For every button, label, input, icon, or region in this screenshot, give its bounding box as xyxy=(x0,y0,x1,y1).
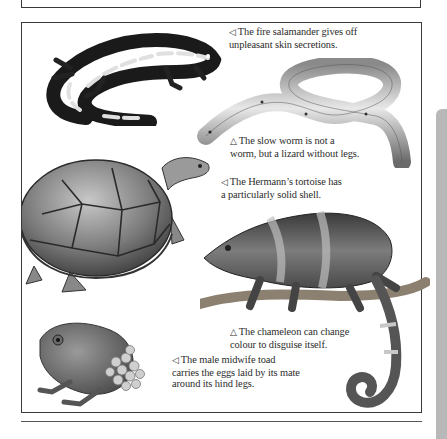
caption-line: worm, but a lizard without legs. xyxy=(230,148,359,159)
caption-chameleon: △The chameleon can change colour to disg… xyxy=(230,326,349,350)
caption-line: The chameleon can change xyxy=(239,326,349,337)
bottom-rule xyxy=(21,421,422,422)
caption-line: unpleasant skin secretions. xyxy=(229,39,337,50)
left-triangle-icon: ◁ xyxy=(172,355,179,365)
caption-fire-salamander: ◁The fire salamander gives off unpleasan… xyxy=(229,26,357,50)
up-triangle-icon: △ xyxy=(230,136,237,146)
hermanns-tortoise-illustration xyxy=(22,144,218,294)
caption-line: a particularly solid shell. xyxy=(221,189,321,200)
caption-slow-worm: △The slow worm is not a worm, but a liza… xyxy=(230,135,359,159)
caption-hermanns-tortoise: ◁The Hermann’s tortoise has a particular… xyxy=(221,176,342,200)
caption-line: The slow worm is not a xyxy=(239,135,335,146)
caption-line: The male midwife toad xyxy=(181,354,276,365)
caption-midwife-toad: ◁The male midwife toad carries the eggs … xyxy=(172,354,300,390)
caption-line: colour to disguise itself. xyxy=(230,339,327,350)
previous-panel-border xyxy=(21,0,421,8)
up-triangle-icon: △ xyxy=(230,327,237,337)
caption-line: around its hind legs. xyxy=(172,378,254,389)
caption-line: The Hermann’s tortoise has xyxy=(230,176,342,187)
left-triangle-icon: ◁ xyxy=(229,27,236,37)
left-triangle-icon: ◁ xyxy=(221,177,228,187)
page-edge-tab xyxy=(436,109,447,439)
caption-line: carries the eggs laid by its mate xyxy=(172,367,300,378)
midwife-toad-illustration xyxy=(30,312,150,408)
caption-line: The fire salamander gives off xyxy=(238,26,357,37)
